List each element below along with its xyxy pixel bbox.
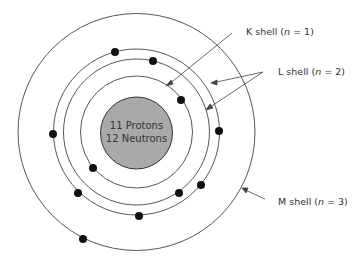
electron bbox=[79, 235, 87, 243]
k-shell-pointer bbox=[168, 33, 232, 85]
electron bbox=[149, 57, 157, 65]
nucleus-protons: 11 Protons bbox=[110, 120, 163, 131]
l-shell-pointer-inner bbox=[207, 72, 263, 109]
nucleus-neutrons: 12 Neutrons bbox=[106, 133, 167, 144]
electron bbox=[197, 181, 205, 189]
electron bbox=[49, 130, 57, 138]
k-shell-label: K shell (n = 1) bbox=[246, 26, 314, 37]
electron bbox=[177, 96, 185, 104]
m-shell-arrowhead bbox=[242, 188, 248, 193]
electron bbox=[175, 189, 183, 197]
m-shell-label: M shell (n = 3) bbox=[278, 196, 348, 207]
electron bbox=[89, 164, 97, 172]
electron bbox=[215, 127, 223, 135]
electron bbox=[135, 212, 143, 220]
l-shell-arrowhead-outer bbox=[211, 80, 217, 85]
l-shell-label: L shell (n = 2) bbox=[278, 66, 345, 77]
atom-diagram: 11 Protons 12 Neutrons bbox=[0, 0, 354, 261]
electron bbox=[111, 48, 119, 56]
electron bbox=[74, 189, 82, 197]
k-shell-arrowhead bbox=[166, 80, 173, 86]
l-shell-arrowhead-inner bbox=[206, 104, 213, 110]
